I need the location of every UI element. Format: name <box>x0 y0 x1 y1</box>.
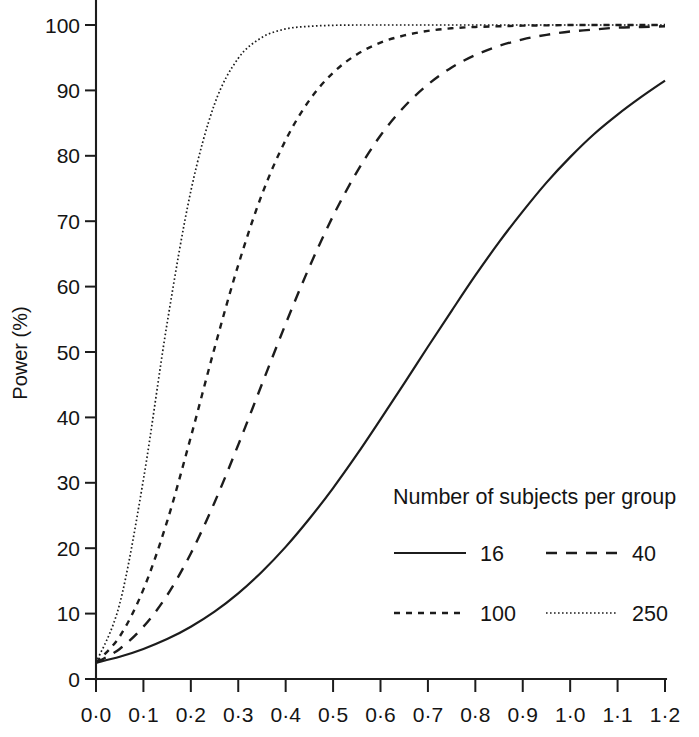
y-tick-label: 0 <box>68 668 80 691</box>
legend-entry-16: 16 <box>394 542 504 566</box>
x-tick-label: 1·2 <box>650 703 680 726</box>
y-tick-label: 70 <box>57 210 80 233</box>
x-tick-label: 1·0 <box>555 703 585 726</box>
x-tick-label: 0·1 <box>128 703 158 726</box>
x-tick-label: 0·0 <box>81 703 111 726</box>
x-tick-label: 0·8 <box>460 703 490 726</box>
legend-title: Number of subjects per group <box>393 485 676 509</box>
y-tick-label: 50 <box>57 341 80 364</box>
x-tick-label: 0·3 <box>223 703 253 726</box>
y-tick-label: 10 <box>57 602 80 625</box>
x-tick-label: 0·9 <box>508 703 538 726</box>
x-tick-label: 0·7 <box>413 703 443 726</box>
legend-label-40: 40 <box>632 542 656 566</box>
x-axis-group: 0·00·10·20·30·40·50·60·70·80·91·01·11·2 <box>81 679 680 726</box>
curve-100 <box>96 25 665 663</box>
y-axis-tick-labels: 0102030405060708090100 <box>45 14 80 691</box>
x-tick-label: 0·6 <box>365 703 395 726</box>
legend-label-100: 100 <box>480 602 516 626</box>
y-axis-title: Power (%) <box>9 306 31 399</box>
x-tick-label: 0·5 <box>318 703 348 726</box>
y-tick-label: 60 <box>57 275 80 298</box>
legend-label-16: 16 <box>480 542 504 566</box>
y-tick-label: 30 <box>57 471 80 494</box>
y-axis-ticks <box>85 25 96 679</box>
x-tick-label: 0·4 <box>270 703 301 726</box>
y-tick-label: 80 <box>57 144 80 167</box>
curve-250 <box>96 25 665 663</box>
x-tick-label: 0·2 <box>176 703 206 726</box>
chart-legend: Number of subjects per group 1640100250 <box>393 485 676 626</box>
curve-16 <box>96 81 665 663</box>
power-curve-figure: 0102030405060708090100 Power (%) 0·00·10… <box>0 0 699 737</box>
x-axis-tick-labels: 0·00·10·20·30·40·50·60·70·80·91·01·11·2 <box>81 703 680 726</box>
y-tick-label: 100 <box>45 14 80 37</box>
legend-entry-100: 100 <box>394 602 516 626</box>
y-tick-label: 20 <box>57 537 80 560</box>
y-tick-label: 90 <box>57 79 80 102</box>
x-tick-label: 1·1 <box>602 703 632 726</box>
curve-40 <box>96 26 665 662</box>
legend-entries: 1640100250 <box>394 542 668 626</box>
legend-entry-40: 40 <box>546 542 656 566</box>
x-axis-ticks <box>96 679 665 692</box>
y-tick-label: 40 <box>57 406 80 429</box>
y-axis-group: 0102030405060708090100 Power (%) <box>9 0 96 691</box>
legend-label-250: 250 <box>632 602 668 626</box>
chart-canvas: 0102030405060708090100 Power (%) 0·00·10… <box>0 0 699 737</box>
legend-entry-250: 250 <box>546 602 668 626</box>
data-curves <box>96 25 665 663</box>
